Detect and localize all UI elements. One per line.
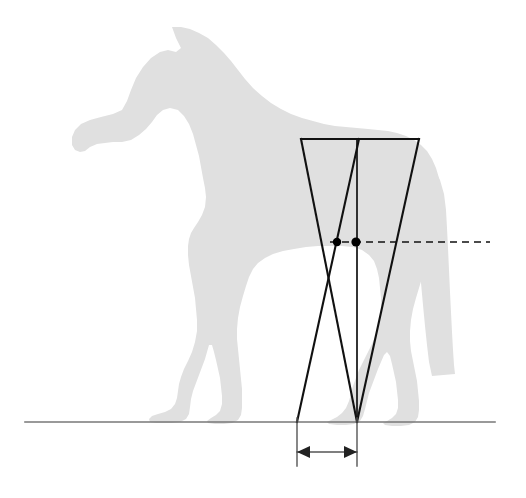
marker-dot-right [351, 237, 360, 246]
horse-geometry-diagram [0, 0, 526, 498]
marker-dot-left [333, 238, 341, 246]
figure-root [0, 0, 526, 498]
